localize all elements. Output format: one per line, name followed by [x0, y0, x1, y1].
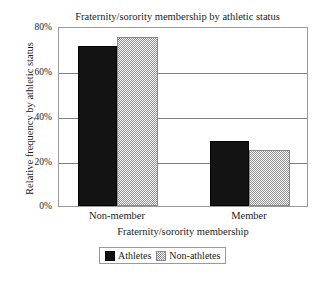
bar-member-non-athletes	[249, 150, 290, 206]
y-tick-label-60: 60%	[0, 67, 52, 77]
legend-entry-athletes: Athletes	[105, 250, 151, 261]
y-tick-label-40: 40%	[0, 112, 52, 122]
x-axis-title: Fraternity/sorority membership	[58, 226, 308, 237]
legend-label-athletes: Athletes	[118, 250, 151, 261]
legend-swatch-non-athletes-icon	[156, 251, 166, 261]
y-tick-label-0: 0%	[0, 201, 52, 211]
y-tick-label-20: 20%	[0, 157, 52, 167]
bar-chart-figure: Fraternity/sorority membership by athlet…	[0, 0, 327, 283]
bar-non-member-non-athletes	[117, 37, 158, 206]
legend: Athletes Non-athletes	[99, 247, 226, 264]
legend-entry-non-athletes: Non-athletes	[156, 250, 220, 261]
plot-area	[58, 27, 308, 207]
chart-title: Fraternity/sorority membership by athlet…	[40, 10, 315, 23]
legend-label-non-athletes: Non-athletes	[169, 250, 220, 261]
legend-swatch-athletes-icon	[105, 251, 115, 261]
bar-member-athletes	[210, 141, 249, 206]
x-tick-label-member: Member	[189, 210, 309, 221]
y-tick-label-80: 80%	[0, 22, 52, 32]
x-tick-label-non-member: Non-member	[57, 210, 177, 221]
bar-non-member-athletes	[78, 46, 117, 206]
